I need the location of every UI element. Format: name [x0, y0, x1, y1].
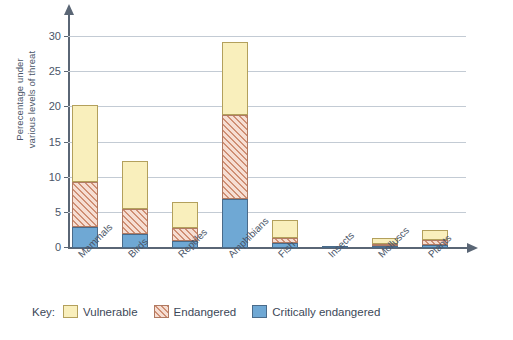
- plot-area: 051015202530: [68, 30, 468, 248]
- bar-segment[interactable]: [272, 220, 298, 238]
- legend-label-critically-endangered: Critically endangered: [272, 306, 380, 318]
- y-axis-label-line-1: Perecentage under: [14, 5, 26, 195]
- bar-segment[interactable]: [222, 42, 248, 115]
- y-axis-label: Perecentage under various levels of thre…: [14, 5, 37, 195]
- legend-label-vulnerable: Vulnerable: [83, 306, 138, 318]
- bar-segment[interactable]: [72, 182, 98, 227]
- bar-group[interactable]: [72, 105, 98, 248]
- legend-label-endangered: Endangered: [174, 306, 237, 318]
- bar-group[interactable]: [122, 161, 148, 248]
- y-axis-tick-label: 25: [49, 65, 61, 77]
- legend-item-critically-endangered[interactable]: Critically endangered: [252, 305, 380, 318]
- bar-segment[interactable]: [122, 161, 148, 209]
- y-axis-arrow-icon: [64, 4, 74, 15]
- bar-segment[interactable]: [222, 115, 248, 199]
- legend-item-vulnerable[interactable]: Vulnerable: [63, 305, 138, 318]
- bar-series-layer: [68, 30, 468, 248]
- y-axis-tick-label: 15: [49, 136, 61, 148]
- chart-legend: Key: Vulnerable Endangered Critically en…: [32, 305, 396, 318]
- bar-segment[interactable]: [122, 209, 148, 234]
- legend-key-word: Key:: [32, 306, 55, 318]
- x-axis-arrow-icon: [467, 243, 478, 253]
- y-axis-tick-label: 10: [49, 171, 61, 183]
- y-axis-label-line-2: various levels of threat: [25, 5, 37, 195]
- endangered-swatch-icon: [154, 305, 169, 318]
- x-axis-tick-labels: MammalsBirdsReptilesAmphibiansFishInsect…: [68, 250, 468, 296]
- bar-segment[interactable]: [72, 105, 98, 182]
- bar-segment[interactable]: [172, 202, 198, 227]
- stacked-bar-chart: Perecentage under various levels of thre…: [0, 0, 513, 340]
- bar-group[interactable]: [222, 42, 248, 248]
- y-axis-tick-label: 30: [49, 30, 61, 42]
- y-axis-tick-label: 0: [55, 241, 61, 253]
- y-axis-tick-label: 20: [49, 100, 61, 112]
- y-axis-tick-label: 5: [55, 206, 61, 218]
- vulnerable-swatch-icon: [63, 305, 78, 318]
- legend-item-endangered[interactable]: Endangered: [154, 305, 237, 318]
- critically-endangered-swatch-icon: [252, 305, 267, 318]
